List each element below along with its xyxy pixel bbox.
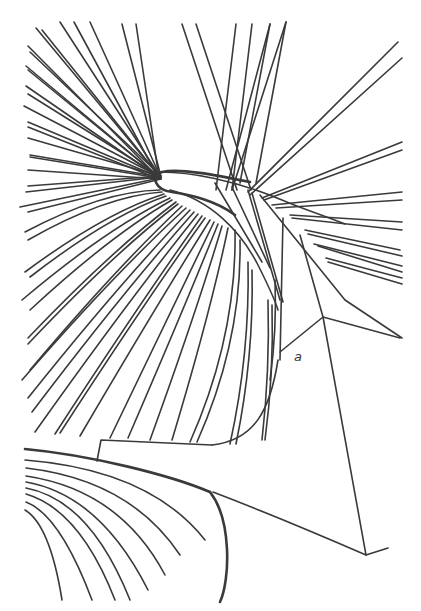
fan-streamline — [182, 24, 237, 190]
fin-top-edge — [280, 317, 400, 352]
downwash-streamline — [190, 230, 235, 442]
upper-right-streamline — [250, 58, 402, 195]
downwash-streamline — [80, 220, 210, 436]
downwash-streamline — [32, 212, 194, 412]
downwash-streamlines — [22, 190, 275, 444]
downwash-streamline — [22, 198, 170, 300]
upper-right-streamline — [292, 218, 402, 230]
upper-right-streamline — [248, 42, 398, 192]
downwash-streamline — [28, 210, 190, 398]
fan-streamline — [240, 24, 270, 183]
upper-right-streamline — [272, 192, 402, 205]
wing-streak — [215, 183, 262, 262]
body-vertical-edge — [280, 218, 283, 360]
downwash-streamline — [35, 214, 198, 432]
upper-right-streamline — [328, 262, 402, 284]
hull-bottom-edge — [213, 492, 366, 555]
lower-left-streamlines — [25, 449, 227, 602]
label-a: a — [294, 349, 302, 364]
upper-right-streamline — [308, 234, 402, 256]
streamline-drawing: a — [0, 0, 421, 611]
upper-right-streamline — [276, 200, 402, 208]
lower-left-streamline — [26, 488, 130, 600]
downwash-streamline — [172, 228, 228, 440]
fan-streamline — [28, 70, 160, 178]
hull-thick-streamline — [25, 449, 210, 492]
shelf-edge — [97, 440, 212, 461]
downwash-streamline — [28, 204, 178, 344]
fan-streamline — [28, 122, 161, 178]
upper-right-streamline — [262, 142, 402, 198]
hull-curve-streamline — [210, 492, 227, 602]
downwash-streamline — [30, 196, 166, 277]
upper-right-streamline — [290, 215, 402, 222]
upper-right-streamline — [264, 150, 402, 200]
tail-fin-edge — [323, 317, 388, 555]
lower-left-streamline — [25, 510, 62, 600]
